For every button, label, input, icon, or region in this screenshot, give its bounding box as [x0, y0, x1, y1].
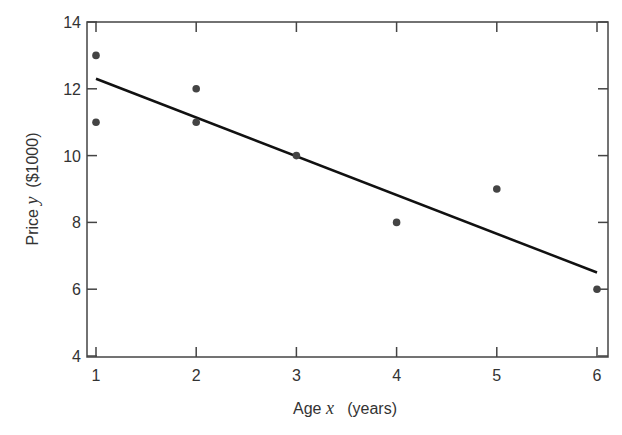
data-points: [92, 52, 601, 293]
plot-frame: [87, 22, 608, 357]
y-tick-label: 6: [72, 281, 81, 298]
y-axis-label: Price y ($1000): [22, 133, 42, 246]
plot-border: [87, 22, 608, 357]
x-tick-label: 5: [492, 367, 501, 384]
x-tick-label: 6: [593, 367, 602, 384]
x-tick-label: 1: [92, 367, 101, 384]
x-tick-label: 4: [392, 367, 401, 384]
y-tick-label: 10: [63, 148, 81, 165]
data-point: [293, 152, 301, 160]
data-point: [92, 52, 100, 60]
y-tick-label: 8: [72, 214, 81, 231]
data-point: [192, 85, 200, 93]
regression-line: [96, 79, 597, 273]
y-tick-label: 14: [63, 14, 81, 31]
y-tick-label: 12: [63, 81, 81, 98]
x-axis-label: Age x (years): [293, 398, 397, 418]
scatter-chart: 123456468101214 Age x (years) Price y ($…: [0, 0, 622, 435]
data-point: [92, 118, 100, 126]
axis-ticks: 123456468101214: [63, 14, 608, 384]
x-tick-label: 3: [292, 367, 301, 384]
data-point: [192, 118, 200, 126]
x-tick-label: 2: [192, 367, 201, 384]
y-tick-label: 4: [72, 348, 81, 365]
data-point: [593, 285, 601, 293]
data-point: [493, 185, 501, 193]
fit-line: [96, 79, 597, 273]
data-point: [393, 219, 401, 227]
